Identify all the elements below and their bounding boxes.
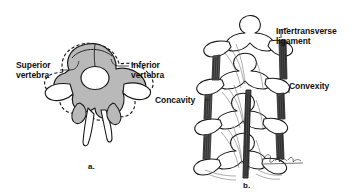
- panel-a-group: [45, 43, 154, 145]
- transverse-process-left: [45, 84, 73, 101]
- vertebra-4-transverse-left: [194, 159, 221, 175]
- vertebra-1-transverse-left: [204, 41, 231, 57]
- label-convexity: Convexity: [289, 81, 329, 91]
- intertransverse-ligaments-left: [203, 55, 220, 159]
- vertebral-foramen: [81, 67, 109, 90]
- vertebra-2-transverse-left: [197, 79, 224, 95]
- transverse-process-right: [123, 83, 151, 100]
- label-concavity: Concavity: [155, 95, 195, 105]
- vertebra-3-outline: [217, 93, 268, 129]
- figure-caption-a: a.: [88, 162, 95, 171]
- label-inferior-vertebra: Inferior vertebra: [131, 60, 164, 80]
- illustration-canvas: Superior vertebra Inferior vertebra Inte…: [0, 0, 359, 195]
- vertebra-2-transverse-right: [265, 78, 290, 94]
- vertebra-3-transverse-right: [263, 118, 288, 134]
- vertebra-4-outline: [216, 133, 267, 169]
- intertransverse-ligaments-right: [276, 40, 287, 159]
- vertebra-1-outline: [226, 16, 274, 51]
- label-intertransverse-ligament: Intertransverse ligament: [276, 26, 337, 46]
- vertebra-4-transverse-right: [262, 158, 287, 174]
- figure-caption-b: b.: [243, 181, 250, 190]
- vertebra-3-transverse-left: [195, 119, 222, 135]
- label-superior-vertebra: Superior vertebra: [16, 60, 51, 80]
